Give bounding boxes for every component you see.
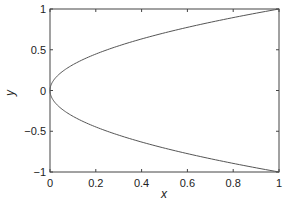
x-tick-label: 0	[47, 177, 53, 189]
x-tick-label: 1	[276, 177, 282, 189]
chart: 00.20.40.60.8110.50−0.5−1 x y	[0, 0, 287, 210]
y-tick-label: 1	[40, 3, 46, 15]
x-tick-label: 0.2	[88, 177, 103, 189]
x-tick-label: 0.6	[180, 177, 195, 189]
plot-area	[50, 9, 279, 172]
x-tick-label: 0.8	[226, 177, 241, 189]
y-tick-label: −0.5	[24, 125, 46, 137]
y-axis-label: y	[3, 89, 17, 97]
x-tick-label: 0.4	[134, 177, 149, 189]
y-tick-label: 0	[40, 85, 46, 97]
y-tick-label: 0.5	[31, 44, 46, 56]
y-tick-label: −1	[33, 166, 46, 178]
x-axis-label: x	[160, 187, 168, 201]
